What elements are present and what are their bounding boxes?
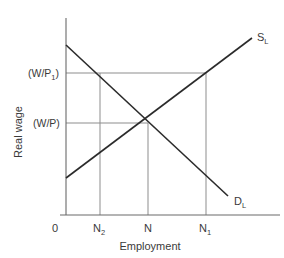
labour-supply-curve [66,38,252,178]
employment-axis-labels: 0 N2 N N1 [52,222,211,237]
y-axis-title: Real wage [12,106,24,158]
wage-axis-labels: (W/P1) (W/P) [28,67,60,129]
labour-market-diagram: SL DL (W/P1) (W/P) 0 N2 N N1 E [0,0,284,258]
wage-label-wp: (W/P) [33,117,60,129]
curve-labels: SL DL [234,31,269,210]
x-axis-title: Employment [119,240,180,252]
chart-canvas: SL DL (W/P1) (W/P) 0 N2 N N1 E [0,0,284,258]
origin-label: 0 [52,222,58,234]
construction-lines [66,73,206,215]
wage-label-wp1: (W/P1) [28,67,59,82]
tick-label-n: N [144,222,152,234]
supply-curve-label: SL [257,31,269,46]
demand-curve-label: DL [234,195,246,210]
curves [66,38,252,196]
tick-label-n1: N1 [199,222,211,237]
tick-label-n2: N2 [93,222,105,237]
labour-demand-curve [66,45,228,196]
axes [60,18,280,215]
